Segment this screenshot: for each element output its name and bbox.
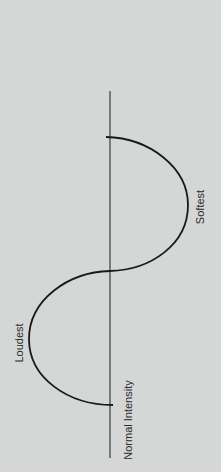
intensity-diagram: Softest Loudest Normal Intensity — [0, 0, 221, 472]
diagram-svg — [0, 0, 221, 472]
loudest-lobe-curve — [29, 271, 113, 405]
softest-lobe-curve — [106, 137, 188, 271]
loudest-label: Loudest — [13, 323, 25, 362]
normal-intensity-label: Normal Intensity — [122, 380, 134, 459]
softest-label: Softest — [194, 190, 206, 224]
